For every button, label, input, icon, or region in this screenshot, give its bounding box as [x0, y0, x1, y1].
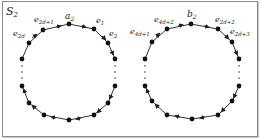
left-cycle	[22, 24, 115, 120]
diagram-title: S2	[6, 5, 19, 19]
node-label-e4d+1: e4d+1	[130, 27, 150, 37]
left-cycle-dots	[21, 65, 116, 79]
node-label-e2: e2	[109, 29, 118, 39]
right-cycle	[145, 24, 239, 119]
node-label-e2d+2: e2d+2	[215, 15, 235, 25]
node-label-e2d: e2d	[13, 29, 25, 39]
node-label-e2d+3: e2d+3	[230, 27, 250, 37]
node-label-e1: e1	[96, 16, 104, 26]
node-label-e4d+2: e4d+2	[154, 15, 174, 25]
right-cycle-dots	[144, 65, 240, 79]
node-label-e2d+1: e2d+1	[34, 15, 54, 25]
cycle-diagram: S2 a2 e2d+1 e1 e2d	[0, 0, 260, 139]
node-label-a2: a2	[65, 11, 74, 22]
node-label-b2: b2	[187, 9, 197, 20]
